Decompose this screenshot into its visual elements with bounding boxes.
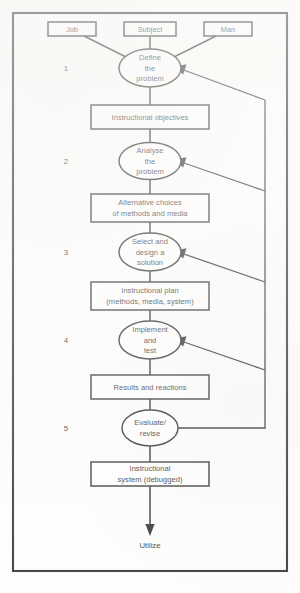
output-instructional-objectives[interactable]: Instructional objectives <box>91 105 209 129</box>
step-number-4: 4 <box>64 336 69 345</box>
process-evaluate-revise-line-1: Evaluate/ <box>134 418 167 427</box>
step-number-5: 5 <box>64 424 69 433</box>
process-define-problem-line-2: the <box>145 64 156 73</box>
feedback-branch-to-analyse <box>181 162 265 191</box>
feedback-branch-to-select <box>181 253 265 282</box>
input-tag-subject: Subject <box>124 22 176 36</box>
terminal-utilize-label: Utilize <box>139 541 160 550</box>
output-results-reactions[interactable]: Results and reactions <box>91 375 209 399</box>
process-select-design-solution-line-2: design a <box>136 248 165 257</box>
process-analyse-problem-line-1: Analyse <box>136 146 163 155</box>
process-analyse-problem-line-2: the <box>145 157 156 166</box>
process-implement-test-line-2: and <box>144 336 157 345</box>
process-implement-test[interactable]: Implement and test <box>119 321 181 359</box>
input-tag-subject-label: Subject <box>138 25 163 34</box>
output-instructional-system-line-1: Instructional <box>130 464 171 473</box>
step-number-2: 2 <box>64 157 68 166</box>
connector-job-to-define <box>84 36 126 57</box>
process-implement-test-line-1: Implement <box>132 325 168 334</box>
output-instructional-system-line-2: system (debugged) <box>117 475 182 484</box>
flowchart-canvas: Job Subject Man <box>0 0 300 593</box>
step-number-3: 3 <box>64 248 68 257</box>
output-instructional-system[interactable]: Instructional system (debugged) <box>91 462 209 486</box>
process-define-problem-line-1: Define <box>139 53 161 62</box>
input-tag-man: Man <box>204 22 252 36</box>
input-tag-job-label: Job <box>66 25 78 34</box>
diagram-page: Job Subject Man <box>0 0 300 593</box>
process-define-problem[interactable]: Define the problem <box>119 49 181 87</box>
feedback-branch-to-implement <box>181 341 265 370</box>
process-select-design-solution-line-3: solution <box>137 258 163 267</box>
arrowhead-utilize <box>145 524 154 536</box>
process-evaluate-revise-shape[interactable] <box>122 410 178 446</box>
process-evaluate-revise-line-2: revise <box>140 429 160 438</box>
output-alternative-choices-line-1: Alternative choices <box>118 198 182 207</box>
output-alternative-choices[interactable]: Alternative choices of methods and media <box>91 194 209 222</box>
output-instructional-plan[interactable]: Instructional plan (methods, media, syst… <box>91 282 209 310</box>
input-tag-job: Job <box>48 22 96 36</box>
process-define-problem-line-3: problem <box>136 74 163 83</box>
process-select-design-solution[interactable]: Select and design a solution <box>119 233 181 271</box>
connector-man-to-define <box>174 36 216 57</box>
output-alternative-choices-line-2: of methods and media <box>112 209 188 218</box>
process-implement-test-line-3: test <box>144 346 157 355</box>
output-instructional-objectives-line-1: Instructional objectives <box>112 113 189 122</box>
output-instructional-plan-line-1: Instructional plan <box>121 286 178 295</box>
process-analyse-problem[interactable]: Analyse the problem <box>119 143 181 180</box>
output-instructional-plan-line-2: (methods, media, system) <box>106 297 194 306</box>
process-evaluate-revise[interactable]: Evaluate/ revise <box>122 410 178 446</box>
process-analyse-problem-line-3: problem <box>136 167 163 176</box>
input-tag-man-label: Man <box>221 25 235 34</box>
feedback-branch-to-define <box>181 69 265 100</box>
output-results-reactions-line-1: Results and reactions <box>113 383 186 392</box>
process-select-design-solution-line-1: Select and <box>132 237 168 246</box>
step-number-1: 1 <box>64 64 68 73</box>
